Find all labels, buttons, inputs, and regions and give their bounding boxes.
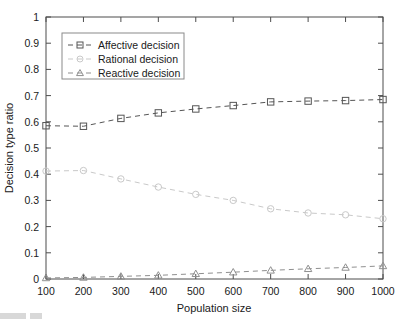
figure-canvas: 00.10.20.30.40.50.60.70.80.91 1002003004…	[0, 0, 399, 322]
y-tick-label: 0.2	[24, 221, 39, 233]
x-tick-label: 600	[224, 285, 242, 297]
legend-label: Affective decision	[98, 39, 180, 51]
x-tick-label: 900	[337, 285, 355, 297]
x-tick-label: 300	[112, 285, 130, 297]
chart-legend: Affective decisionRational decisionReact…	[62, 33, 184, 79]
y-tick-label: 0.5	[24, 142, 39, 154]
y-tick-label: 1	[33, 11, 39, 23]
y-tick-label: 0.9	[24, 37, 39, 49]
y-axis-title: Decision type ratio	[3, 103, 15, 194]
legend-label: Rational decision	[98, 53, 178, 65]
y-tick-label: 0.1	[24, 247, 39, 259]
y-tick-label: 0.8	[24, 63, 39, 75]
y-tick-label: 0.7	[24, 90, 39, 102]
y-tick-label: 0.3	[24, 194, 39, 206]
y-tick-label: 0	[33, 273, 39, 285]
x-tick-label: 500	[187, 285, 205, 297]
chart-plot: 00.10.20.30.40.50.60.70.80.91 1002003004…	[0, 0, 399, 322]
x-tick-label: 100	[37, 285, 55, 297]
x-tick-label: 700	[262, 285, 280, 297]
x-tick-label: 800	[299, 285, 317, 297]
x-tick-label: 200	[75, 285, 93, 297]
scanline-artifact	[0, 313, 42, 319]
y-tick-label: 0.4	[24, 168, 39, 180]
x-axis-title: Population size	[177, 302, 252, 314]
y-tick-label: 0.6	[24, 116, 39, 128]
x-tick-label: 400	[150, 285, 168, 297]
x-tick-label: 1000	[371, 285, 395, 297]
legend-label: Reactive decision	[98, 67, 180, 79]
